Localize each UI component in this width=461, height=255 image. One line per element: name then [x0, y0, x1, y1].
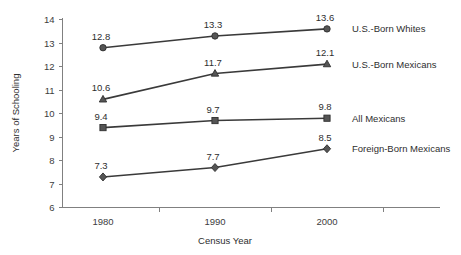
- legend-label-0: U.S.-Born Whites: [352, 23, 426, 34]
- data-point-marker-diamond: [99, 173, 106, 181]
- y-tick-label: 9: [49, 132, 54, 143]
- legend-label-2: All Mexicans: [352, 113, 406, 124]
- data-point-label: 8.5: [318, 132, 331, 143]
- y-tick-label: 13: [44, 38, 55, 49]
- data-point-label: 7.3: [94, 160, 107, 171]
- data-point-label: 12.1: [316, 47, 335, 58]
- x-tick-label: 1980: [92, 216, 113, 227]
- y-tick-label: 6: [49, 202, 54, 213]
- y-tick-label: 14: [44, 14, 55, 25]
- data-point-marker-diamond: [211, 164, 218, 172]
- data-point-label: 13.6: [316, 12, 335, 23]
- legend: U.S.-Born WhitesU.S.-Born MexicansAll Me…: [352, 23, 450, 154]
- legend-label-1: U.S.-Born Mexicans: [352, 59, 437, 70]
- data-point-marker-circle: [324, 26, 330, 32]
- legend-label-3: Foreign-Born Mexicans: [352, 143, 450, 154]
- data-point-marker-triangle: [323, 60, 330, 67]
- data-point-label: 11.7: [204, 57, 222, 68]
- x-axis-title: Census Year: [198, 235, 252, 246]
- chart-container: 67891011121314 198019902000 12.813.313.6…: [0, 0, 461, 255]
- data-point-marker-circle: [212, 33, 218, 39]
- data-point-marker-square: [100, 125, 106, 131]
- x-tick-label: 2000: [316, 216, 337, 227]
- x-axis-ticks: 198019902000: [92, 208, 383, 227]
- data-point-label: 12.8: [92, 31, 111, 42]
- data-point-label: 9.7: [206, 104, 219, 115]
- x-tick-label: 1990: [204, 216, 225, 227]
- data-point-label: 13.3: [204, 19, 223, 30]
- data-point-marker-square: [212, 117, 218, 123]
- line-chart: 67891011121314 198019902000 12.813.313.6…: [0, 0, 461, 255]
- y-tick-label: 10: [44, 108, 55, 119]
- y-tick-label: 12: [44, 61, 55, 72]
- data-point-label: 9.4: [94, 111, 107, 122]
- data-point-label: 9.8: [318, 101, 331, 112]
- y-axis-title: Years of Schooling: [10, 74, 21, 153]
- data-point-marker-square: [324, 115, 330, 121]
- y-tick-label: 11: [45, 85, 55, 96]
- data-point-marker-diamond: [323, 145, 330, 153]
- y-tick-label: 8: [49, 155, 54, 166]
- data-point-marker-circle: [100, 45, 106, 51]
- y-tick-label: 7: [49, 179, 54, 190]
- series-2: [100, 115, 330, 131]
- data-point-label: 7.7: [206, 151, 219, 162]
- data-point-label: 10.6: [92, 82, 111, 93]
- y-axis-ticks: 67891011121314: [44, 14, 63, 213]
